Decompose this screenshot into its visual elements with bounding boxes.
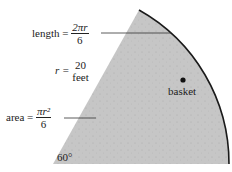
basket-point bbox=[180, 77, 185, 82]
area-formula: area = πr²6 bbox=[6, 106, 51, 130]
radius-formula: r = 20feet bbox=[55, 60, 89, 83]
angle-label: 60° bbox=[57, 152, 72, 163]
basket-label: basket bbox=[168, 86, 196, 97]
area-lhs: area = bbox=[6, 111, 33, 123]
length-numerator: 2πr bbox=[71, 22, 88, 34]
radius-unit: feet bbox=[72, 71, 88, 83]
length-formula: length = 2πr6 bbox=[32, 22, 89, 46]
area-denominator: 6 bbox=[36, 118, 51, 130]
radius-value: 20 bbox=[72, 60, 88, 71]
radius-lhs: r = bbox=[55, 64, 69, 76]
length-lhs: length = bbox=[32, 27, 68, 39]
length-denominator: 6 bbox=[71, 34, 88, 46]
area-numerator: πr² bbox=[36, 106, 51, 118]
